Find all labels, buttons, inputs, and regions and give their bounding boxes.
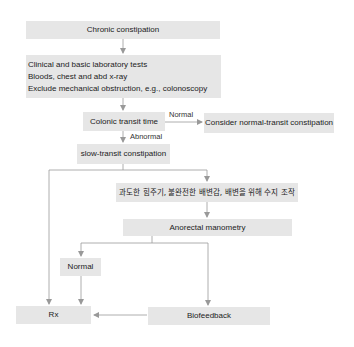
node-label-line: Exclude mechanical obstruction, e.g., co… [28, 83, 207, 95]
node-label-line: Bloods, chest and abd x-ray [28, 71, 127, 83]
node-label: Biofeedback [187, 311, 231, 321]
node-label: Rx [49, 310, 59, 320]
node-biofeedback: Biofeedback [148, 307, 270, 325]
node-label: Chronic constipation [87, 25, 159, 35]
node-label: Colonic transit time [90, 117, 158, 127]
node-normal-transit-constipation: Consider normal-transit constipation [204, 113, 334, 133]
node-slow-transit-constipation: slow-transit constipation [77, 144, 170, 164]
node-label: slow-transit constipation [81, 149, 166, 159]
node-clinical-tests: Clinical and basic laboratory tests Bloo… [26, 55, 221, 98]
node-colonic-transit-time: Colonic transit time [83, 112, 165, 131]
node-label: Normal [68, 262, 94, 272]
node-anorectal-manometry: Anorectal manometry [123, 219, 292, 236]
node-normal: Normal [60, 258, 101, 276]
node-label: 과도한 힘주기, 불완전한 배변감, 배변을 위해 수지 조작 [119, 188, 294, 198]
node-label: Consider normal-transit constipation [205, 118, 333, 128]
node-symptoms: 과도한 힘주기, 불완전한 배변감, 배변을 위해 수지 조작 [116, 183, 298, 202]
node-label: Anorectal manometry [169, 223, 245, 233]
edge-label-abnormal: Abnormal [130, 132, 162, 141]
node-rx: Rx [16, 306, 91, 324]
connector-lines [0, 0, 354, 347]
node-chronic-constipation: Chronic constipation [26, 21, 220, 39]
edge-label-normal: Normal [169, 110, 193, 119]
node-label-line: Clinical and basic laboratory tests [28, 59, 147, 71]
